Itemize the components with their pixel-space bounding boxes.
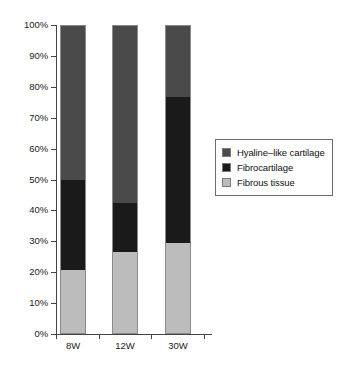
bar-12w — [112, 25, 138, 334]
bar-30w — [165, 25, 191, 334]
bar-segment — [60, 270, 86, 334]
x-axis-tick — [151, 334, 152, 339]
x-axis-tick — [99, 334, 100, 339]
y-axis-tick — [51, 303, 56, 304]
bar-segment — [112, 203, 138, 252]
y-axis-tick — [51, 149, 56, 150]
x-axis-tick — [56, 334, 57, 339]
y-axis-tick — [51, 180, 56, 181]
y-axis-tick-label: 60% — [2, 144, 48, 154]
legend-item: Hyaline–like cartilage — [222, 145, 325, 160]
legend-item-label: Hyaline–like cartilage — [237, 148, 325, 158]
y-axis-tick-label: 10% — [2, 298, 48, 308]
y-axis-tick-label: 100% — [2, 20, 48, 30]
y-axis-tick-label: 80% — [2, 82, 48, 92]
y-axis-tick — [51, 210, 56, 211]
y-axis-tick — [51, 272, 56, 273]
y-axis-tick-label: 30% — [2, 236, 48, 246]
legend-swatch-icon — [222, 178, 231, 187]
bar-segment — [165, 243, 191, 334]
bar-segment — [60, 25, 86, 180]
bar-8w — [60, 25, 86, 334]
x-axis-tick-label: 8W — [53, 341, 93, 351]
y-axis-tick — [51, 56, 56, 57]
chart-legend: Hyaline–like cartilageFibrocartilageFibr… — [215, 139, 333, 196]
y-axis-tick — [51, 241, 56, 242]
legend-swatch-icon — [222, 148, 231, 157]
bar-segment — [112, 25, 138, 203]
y-axis-tick-label: 50% — [2, 175, 48, 185]
x-axis-line — [56, 334, 212, 335]
y-axis-tick-label: 40% — [2, 205, 48, 215]
y-axis-tick — [51, 118, 56, 119]
y-axis-tick — [51, 87, 56, 88]
bar-segment — [60, 180, 86, 271]
y-axis-tick-label: 0% — [2, 329, 48, 339]
x-axis-tick-label: 12W — [105, 341, 145, 351]
legend-item: Fibrous tissue — [222, 175, 325, 190]
stacked-bar-chart: 0%10%20%30%40%50%60%70%80%90%100% 8W12W3… — [0, 0, 353, 376]
y-axis-tick-label: 90% — [2, 51, 48, 61]
x-axis-tick — [204, 334, 205, 339]
y-axis-tick-label: 20% — [2, 267, 48, 277]
legend-item-label: Fibrocartilage — [237, 163, 293, 173]
bar-segment — [165, 25, 191, 97]
bar-segment — [112, 252, 138, 334]
bar-segment — [165, 97, 191, 243]
legend-swatch-icon — [222, 163, 231, 172]
x-axis-tick-label: 30W — [158, 341, 198, 351]
legend-item-label: Fibrous tissue — [237, 178, 295, 188]
y-axis-tick — [51, 25, 56, 26]
y-axis-tick-label: 70% — [2, 113, 48, 123]
legend-item: Fibrocartilage — [222, 160, 325, 175]
